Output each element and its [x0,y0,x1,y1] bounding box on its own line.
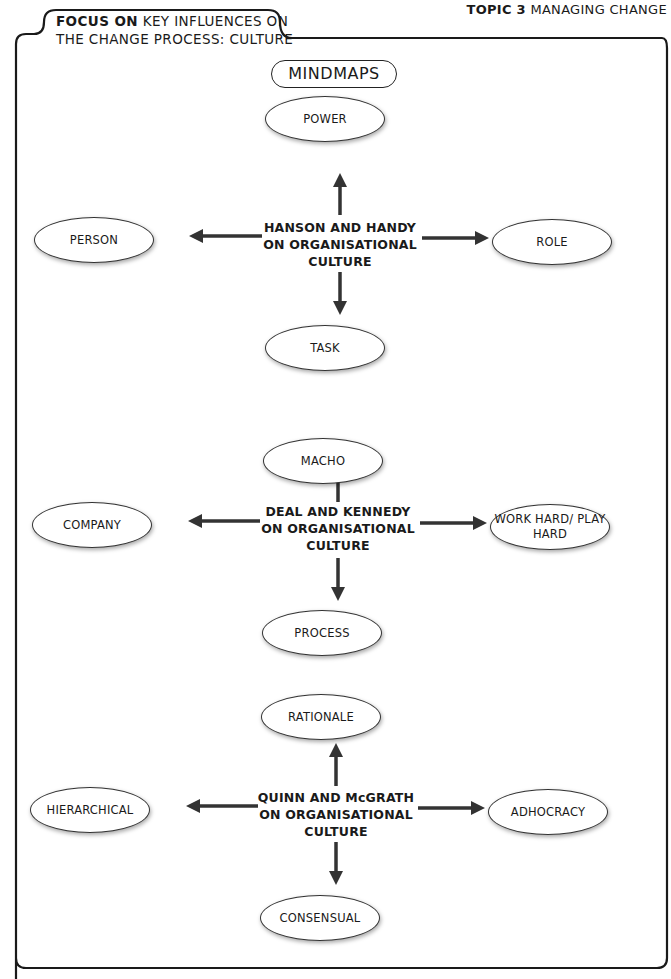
center-deal-kennedy: DEAL AND KENNEDYON ORGANISATIONALCULTURE [253,503,423,554]
node-adhocracy: ADHOCRACY [488,789,608,835]
node-task: TASK [265,325,385,371]
node-company: COMPANY [32,502,152,548]
node-person: PERSON [34,217,154,263]
center-hanson-handy: HANSON AND HANDYON ORGANISATIONALCULTURE [255,219,425,270]
node-role: ROLE [492,219,612,265]
node-hierarchical: HIERARCHICAL [30,787,150,833]
node-power: POWER [265,96,385,142]
node-work-hard-play-hard: WORK HARD/ PLAY HARD [490,504,610,550]
node-process: PROCESS [262,610,382,656]
node-consensual: CONSENSUAL [260,895,380,941]
center-quinn-mcgrath: QUINN AND McGRATHON ORGANISATIONALCULTUR… [251,789,421,840]
node-rationale: RATIONALE [261,694,381,740]
node-macho: MACHO [263,438,383,484]
